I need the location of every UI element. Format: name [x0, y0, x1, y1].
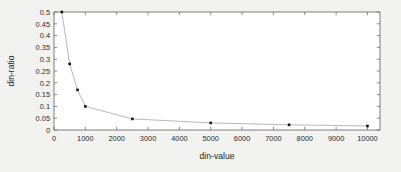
- y-tick-label: 0: [46, 126, 50, 135]
- x-tick-label: 7000: [265, 134, 281, 143]
- y-tick-labels: 00.050.10.150.20.250.30.350.40.450.5: [36, 8, 50, 135]
- chart-figure: 0100020003000400050006000700080009000100…: [0, 0, 401, 172]
- data-point-marker: [209, 122, 212, 125]
- data-point-marker: [84, 105, 87, 108]
- x-tick-label: 10000: [357, 134, 378, 143]
- y-tick-label: 0.25: [36, 67, 50, 76]
- y-tick-label: 0.05: [36, 114, 50, 123]
- chart-plot-svg: 0100020003000400050006000700080009000100…: [0, 0, 401, 172]
- data-point-marker: [76, 89, 79, 92]
- y-tick-label: 0.1: [40, 102, 50, 111]
- x-tick-label: 3000: [140, 134, 156, 143]
- x-tick-label: 9000: [328, 134, 344, 143]
- x-tick-label: 4000: [171, 134, 187, 143]
- data-point-marker: [61, 11, 64, 14]
- data-point-marker: [68, 63, 71, 66]
- data-point-marker: [131, 118, 134, 121]
- data-point-marker: [366, 125, 369, 128]
- plot-area-background: [54, 12, 380, 130]
- x-tick-label: 5000: [203, 134, 219, 143]
- y-tick-label: 0.4: [40, 31, 50, 40]
- y-tick-label: 0.45: [36, 20, 50, 29]
- x-axis-title: din-value: [200, 151, 235, 161]
- x-tick-label: 2000: [108, 134, 124, 143]
- y-tick-label: 0.5: [40, 8, 50, 17]
- y-tick-label: 0.35: [36, 43, 50, 52]
- y-tick-label: 0.3: [40, 55, 50, 64]
- x-tick-label: 6000: [234, 134, 250, 143]
- x-tick-label: 1000: [77, 134, 93, 143]
- data-point-marker: [288, 124, 291, 127]
- x-tick-label: 8000: [297, 134, 313, 143]
- y-axis-title: din-ratio: [6, 55, 16, 86]
- y-tick-label: 0.15: [36, 90, 50, 99]
- x-tick-label: 0: [52, 134, 56, 143]
- y-tick-label: 0.2: [40, 79, 50, 88]
